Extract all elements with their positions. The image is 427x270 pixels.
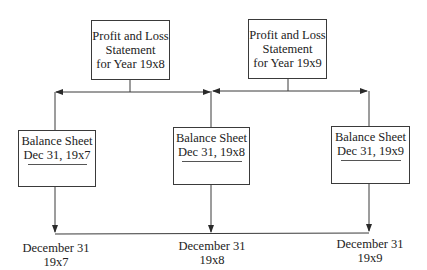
timeline-line	[55, 233, 369, 234]
balance-sheet-19x8: Balance Sheet Dec 31, 19x8	[173, 127, 250, 185]
accounting-period-diagram: Profit and Loss Statement for Year 19x8 …	[0, 0, 427, 270]
pl-line-1: Profit and Loss	[92, 29, 168, 43]
pl-line-2: Statement	[263, 42, 313, 56]
pl-line-1: Profit and Loss	[249, 28, 325, 42]
timeline-label-19x7: December 31 19x7	[6, 241, 106, 269]
month-day: December 31	[320, 237, 420, 251]
balance-sheet-19x9: Balance Sheet Dec 31, 19x9	[331, 126, 410, 184]
balance-sheet-19x7: Balance Sheet Dec 31, 19x7	[18, 130, 96, 187]
timeline-label-19x8: December 31 19x8	[162, 239, 262, 267]
bs-title: Balance Sheet	[332, 130, 409, 144]
month-day: December 31	[162, 239, 262, 253]
pl-line-3: for Year 19x8	[96, 57, 164, 71]
bs-underline	[182, 161, 242, 162]
bs-title: Balance Sheet	[19, 134, 95, 148]
bs-underline	[341, 160, 401, 161]
year: 19x7	[6, 255, 106, 269]
timeline-label-19x9: December 31 19x9	[320, 237, 420, 265]
year: 19x9	[320, 251, 420, 265]
bs-underline	[28, 164, 87, 165]
bs-date: Dec 31, 19x9	[332, 144, 409, 158]
year: 19x8	[162, 253, 262, 267]
pl-line-2: Statement	[106, 43, 156, 57]
bs-title: Balance Sheet	[174, 131, 249, 145]
bs-date: Dec 31, 19x8	[174, 145, 249, 159]
profit-loss-statement-19x8: Profit and Loss Statement for Year 19x8	[91, 20, 170, 80]
pl-line-3: for Year 19x9	[253, 56, 321, 70]
bs-date: Dec 31, 19x7	[19, 148, 95, 162]
month-day: December 31	[6, 241, 106, 255]
profit-loss-statement-19x9: Profit and Loss Statement for Year 19x9	[248, 19, 327, 79]
